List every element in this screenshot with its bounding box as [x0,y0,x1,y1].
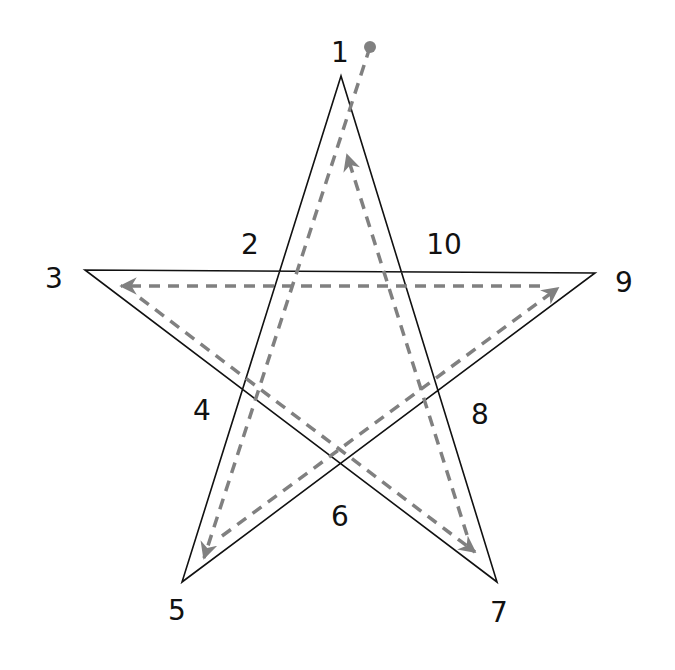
path-segment-4 [140,298,475,552]
start-dot [364,41,376,53]
vertex-label: 8 [471,398,489,431]
vertex-label: 1 [331,36,349,69]
path-segment-1 [204,47,370,558]
vertex-label: 7 [490,596,508,629]
vertex-labels: 12345678910 [45,36,633,629]
vertex-label: 10 [426,228,462,261]
vertex-label: 5 [168,594,186,627]
vertex-label: 9 [615,266,633,299]
vertex-label: 3 [45,262,63,295]
vertex-label: 2 [241,228,259,261]
vertex-label: 4 [193,394,211,427]
pentagram-diagram: 12345678910 [0,0,675,670]
vertex-label: 6 [331,500,349,533]
path-segment-5 [347,155,467,535]
drawing-order-path [121,47,558,558]
